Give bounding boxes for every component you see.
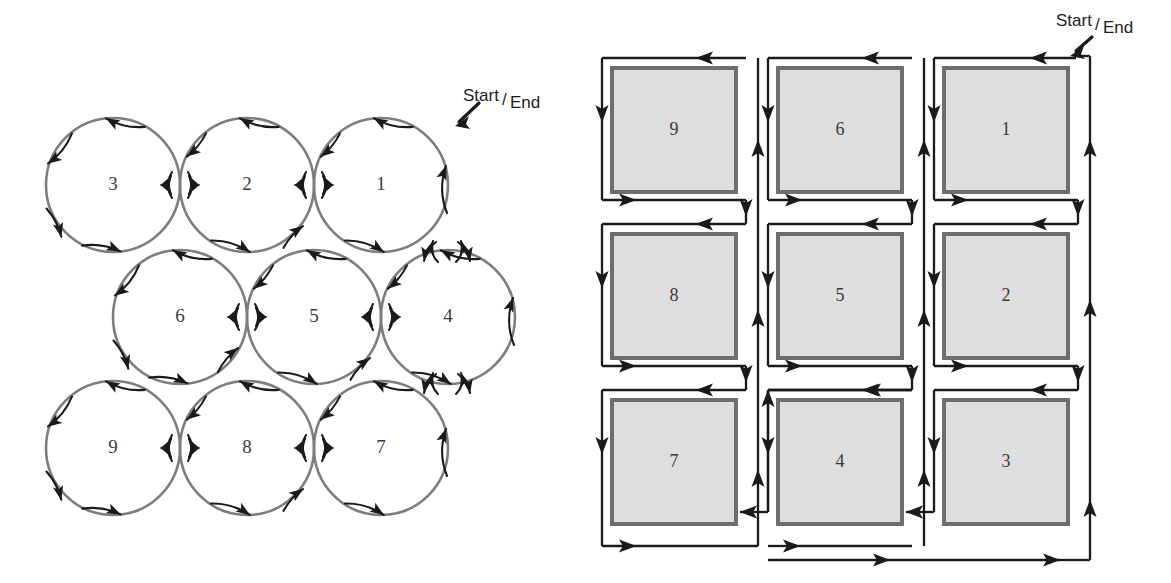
- circle-label-6: 6: [175, 305, 185, 326]
- square-label-4: 4: [836, 451, 845, 471]
- left-slash-label: /: [502, 90, 507, 109]
- circle-label-3: 3: [108, 173, 118, 194]
- square-label-2: 2: [1002, 285, 1011, 305]
- circle-label-7: 7: [376, 436, 386, 457]
- square-label-7: 7: [670, 451, 679, 471]
- square-label-8: 8: [670, 285, 679, 305]
- circle-label-8: 8: [242, 436, 252, 457]
- figure-root: 3 2 1 6 5 4 9 8 7 Start / End: [0, 0, 1171, 583]
- circle-label-1: 1: [376, 173, 386, 194]
- circle-label-5: 5: [309, 305, 319, 326]
- square-label-6: 6: [836, 119, 845, 139]
- circle-label-2: 2: [242, 173, 252, 194]
- right-end-label: End: [1103, 18, 1133, 37]
- square-label-1: 1: [1002, 119, 1011, 139]
- circle-label-4: 4: [443, 305, 453, 326]
- left-end-label: End: [510, 93, 540, 112]
- circle-label-9: 9: [108, 436, 118, 457]
- square-label-5: 5: [836, 285, 845, 305]
- right-slash-label: /: [1095, 15, 1100, 34]
- square-label-9: 9: [670, 119, 679, 139]
- right-start-label: Start: [1056, 11, 1092, 30]
- right-diagram: 9 6 1 8 5 2 7 4 3 Start / End: [602, 11, 1133, 560]
- square-label-3: 3: [1002, 451, 1011, 471]
- left-start-label: Start: [463, 86, 499, 105]
- diagram-canvas: 3 2 1 6 5 4 9 8 7 Start / End: [0, 0, 1171, 583]
